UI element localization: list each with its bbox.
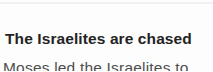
- page-top-edge-shadow: [0, 2, 213, 4]
- paragraph-line-1: Moses led the Israelites to: [3, 58, 188, 72]
- story-heading: The Israelites are chased: [5, 30, 192, 48]
- story-paragraph: Moses led the Israelites to the water of…: [3, 58, 188, 72]
- storybook-page-fragment: The Israelites are chased Moses led the …: [0, 0, 213, 71]
